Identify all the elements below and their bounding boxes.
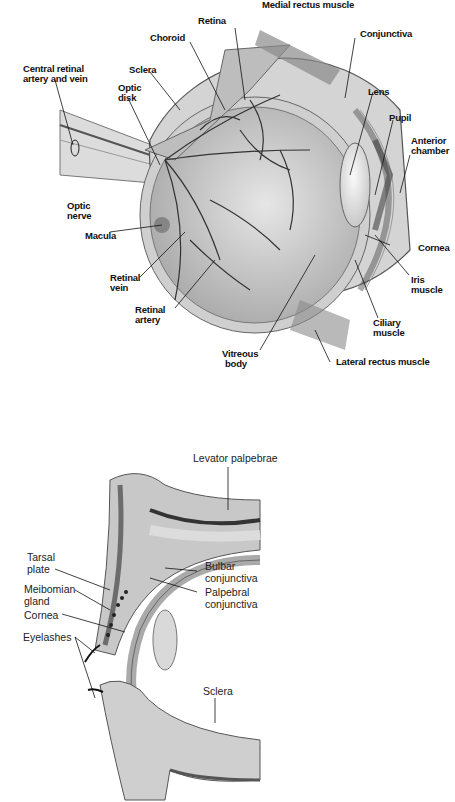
- label-tarsal-plate-line1: Tarsal: [27, 552, 55, 563]
- label-choroid: Choroid: [150, 33, 185, 43]
- label-bulbar-conjunctiva-line2: conjunctiva: [205, 573, 258, 584]
- label-lens: Lens: [368, 87, 389, 97]
- label-meibomian-gland-line2: gland: [24, 596, 50, 607]
- label-sclera: Sclera: [129, 65, 156, 75]
- label-retina: Retina: [198, 16, 226, 26]
- label-ciliary-muscle-line2: muscle: [373, 328, 405, 338]
- label-retinal-artery-line2: artery: [135, 315, 160, 325]
- label-meibomian-gland-line1: Meibomian: [24, 584, 75, 595]
- label-palpebral-conjunctiva-line2: conjunctiva: [205, 599, 258, 610]
- label-cornea: Cornea: [24, 610, 58, 621]
- label-sclera: Sclera: [203, 686, 233, 697]
- label-iris-muscle-line2: muscle: [411, 285, 443, 295]
- label-eyelashes: Eyelashes: [23, 632, 71, 643]
- label-optic-disk-line2: disk: [118, 93, 136, 103]
- label-central-retinal-artery-line2: artery and vein: [23, 74, 88, 84]
- label-macula: Macula: [85, 231, 116, 241]
- label-palpebral-conjunctiva-line1: Palpebral: [205, 587, 249, 598]
- label-tarsal-plate-line2: plate: [27, 564, 50, 575]
- label-lateral-rectus-muscle: Lateral rectus muscle: [336, 357, 430, 367]
- label-vitreous-body-line2: body: [225, 359, 247, 369]
- label-anterior-chamber-line2: chamber: [411, 146, 449, 156]
- label-bulbar-conjunctiva-line1: Bulbar: [205, 561, 235, 572]
- eyeball-diagram: Medial rectus muscle Retina Choroid Conj…: [0, 0, 455, 400]
- label-medial-rectus-muscle: Medial rectus muscle: [262, 0, 354, 10]
- eyelid-illustration: [0, 440, 455, 802]
- label-cornea: Cornea: [418, 243, 450, 253]
- label-levator-palpebrae: Levator palpebrae: [193, 453, 278, 464]
- eyelid-diagram: Levator palpebrae Tarsal plate Bulbar co…: [0, 440, 455, 802]
- label-retinal-vein-line2: vein: [110, 283, 128, 293]
- label-pupil: Pupil: [389, 113, 411, 123]
- label-conjunctiva: Conjunctiva: [360, 29, 412, 39]
- label-optic-nerve-line2: nerve: [67, 211, 91, 221]
